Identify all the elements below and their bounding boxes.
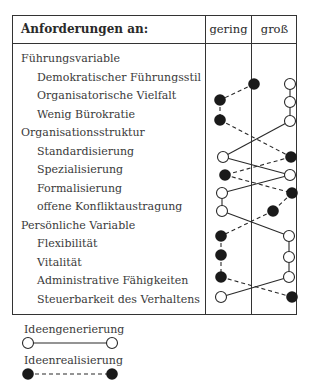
filled-circle-icon bbox=[286, 291, 298, 303]
filled-circle-icon bbox=[215, 230, 227, 242]
filled-circle-icon bbox=[267, 205, 279, 217]
legend-label-realization: Ideenrealisierung bbox=[24, 354, 123, 368]
open-circle-icon bbox=[285, 97, 296, 108]
open-circle-icon bbox=[218, 152, 229, 163]
open-circle-icon bbox=[217, 206, 228, 217]
open-circle-icon bbox=[285, 79, 296, 90]
legend-generation-symbol bbox=[23, 338, 118, 349]
filled-circle-icon bbox=[215, 271, 227, 283]
open-circle-icon bbox=[216, 292, 227, 303]
open-circle-icon bbox=[285, 116, 296, 127]
generation-lines bbox=[221, 84, 290, 297]
open-circle-icon bbox=[285, 170, 296, 181]
open-circle-icon bbox=[284, 231, 295, 242]
filled-circle-icon bbox=[219, 169, 231, 181]
filled-circle-icon bbox=[22, 368, 34, 380]
filled-circle-icon bbox=[106, 368, 118, 380]
open-circle-icon bbox=[217, 188, 228, 199]
filled-circle-icon bbox=[214, 114, 226, 126]
filled-circle-icon bbox=[248, 78, 260, 90]
open-circle-icon bbox=[107, 338, 118, 349]
filled-circle-icon bbox=[215, 249, 227, 261]
open-circle-icon bbox=[284, 272, 295, 283]
legend-label-generation: Ideengenerierung bbox=[24, 323, 124, 337]
open-circle-icon bbox=[284, 252, 295, 263]
filled-circle-icon bbox=[286, 187, 298, 199]
legend-realization-symbol bbox=[22, 368, 118, 380]
filled-circle-icon bbox=[214, 94, 226, 106]
generation-nodes bbox=[216, 79, 296, 303]
open-circle-icon bbox=[23, 338, 34, 349]
filled-circle-icon bbox=[285, 151, 297, 163]
